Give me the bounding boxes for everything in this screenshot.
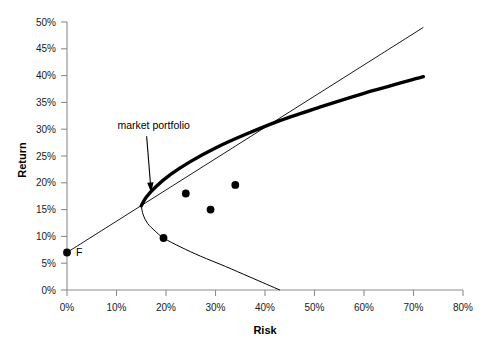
y-tick-label: 25% bbox=[36, 151, 56, 162]
market-portfolio-label: market portfolio bbox=[117, 119, 190, 131]
x-axis-title: Risk bbox=[253, 324, 277, 336]
x-tick-label: 70% bbox=[403, 302, 423, 313]
y-tick-label: 30% bbox=[36, 124, 56, 135]
y-tick-label: 15% bbox=[36, 204, 56, 215]
y-tick-label: 20% bbox=[36, 177, 56, 188]
y-tick-label: 5% bbox=[42, 258, 57, 269]
risk-free-point-label: F bbox=[76, 246, 82, 258]
asset-point-0 bbox=[63, 249, 71, 257]
x-tick-label: 0% bbox=[60, 302, 75, 313]
x-tick-label: 50% bbox=[304, 302, 324, 313]
y-tick-label: 40% bbox=[36, 70, 56, 81]
x-tick-label: 40% bbox=[255, 302, 275, 313]
capital-market-line bbox=[67, 27, 423, 252]
efficient-frontier-chart: 0%5%10%15%20%25%30%35%40%45%50% 0%10%20%… bbox=[0, 0, 482, 350]
asset-point-1 bbox=[160, 234, 168, 242]
x-tick-label: 10% bbox=[106, 302, 126, 313]
asset-point-3 bbox=[207, 206, 215, 214]
x-axis-tick-labels: 0%10%20%30%40%50%60%70%80% bbox=[60, 302, 473, 313]
efficient-frontier-curve bbox=[141, 77, 423, 206]
y-axis-title: Return bbox=[16, 142, 28, 178]
chart-figure: 0%5%10%15%20%25%30%35%40%45%50% 0%10%20%… bbox=[0, 0, 482, 350]
y-tick-label: 50% bbox=[36, 17, 56, 28]
annotations-layer: market portfolioF bbox=[76, 119, 190, 257]
axis-lines bbox=[67, 22, 463, 290]
asset-point-2 bbox=[182, 190, 190, 198]
y-tick-label: 45% bbox=[36, 43, 56, 54]
y-tick-label: 35% bbox=[36, 97, 56, 108]
x-tick-label: 20% bbox=[156, 302, 176, 313]
annotation-arrow-shaft bbox=[147, 136, 151, 185]
x-tick-label: 30% bbox=[205, 302, 225, 313]
y-axis-tick-labels: 0%5%10%15%20%25%30%35%40%45%50% bbox=[36, 17, 56, 296]
data-series-layer bbox=[67, 27, 423, 290]
x-tick-label: 60% bbox=[354, 302, 374, 313]
y-tick-label: 10% bbox=[36, 231, 56, 242]
inefficient-frontier-curve bbox=[141, 206, 280, 290]
asset-point-4 bbox=[231, 181, 239, 189]
x-axis-ticks bbox=[67, 290, 463, 296]
y-tick-label: 0% bbox=[42, 285, 57, 296]
x-tick-label: 80% bbox=[453, 302, 473, 313]
